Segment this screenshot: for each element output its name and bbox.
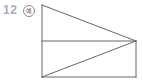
top-slant-edge (42, 5, 136, 41)
geometry-figure (0, 0, 143, 82)
lower-diagonal (42, 41, 136, 77)
